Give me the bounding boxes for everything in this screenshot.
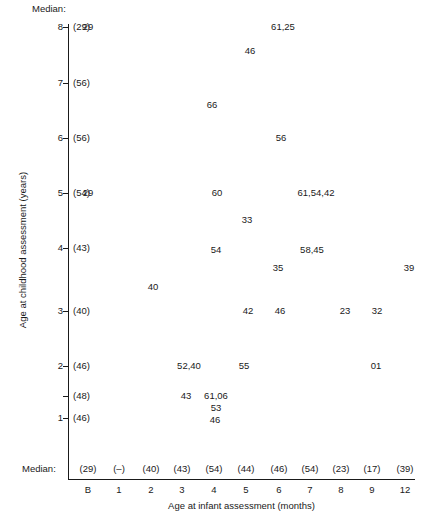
y-median-value: (46) <box>73 361 90 371</box>
data-point-label: 42 <box>243 306 254 316</box>
data-point-label: 23 <box>340 306 351 316</box>
y-axis-tick-label: 7 <box>32 83 63 93</box>
x-axis-tick-label: 8 <box>338 485 343 495</box>
x-axis-tick-label: 1 <box>116 485 121 495</box>
data-point-label: 61,54,42 <box>298 188 335 198</box>
y-median-value: (48) <box>73 391 90 401</box>
data-point-label: 40 <box>148 282 159 292</box>
y-axis-tick-label: 6 <box>32 138 63 148</box>
y-axis-tick-label: 5 <box>32 193 63 203</box>
x-axis-tick-label: B <box>85 485 91 495</box>
data-point-label: 61,25 <box>271 22 295 32</box>
y-median-value: (40) <box>73 306 90 316</box>
x-median-value: (17) <box>364 464 381 474</box>
data-point-label: 55 <box>239 361 250 371</box>
x-axis-line <box>68 479 415 480</box>
y-axis-line <box>68 24 69 479</box>
x-median-value: (44) <box>238 464 255 474</box>
data-point-label: 46 <box>245 46 256 56</box>
x-median-value: (40) <box>143 464 160 474</box>
y-axis-tick-mark <box>63 27 68 28</box>
data-point-label: 29 <box>83 22 94 32</box>
y-axis-tick-label: 8 <box>32 27 63 37</box>
y-axis-tick-mark <box>63 138 68 139</box>
x-median-value: (–) <box>113 464 125 474</box>
x-axis-title: Age at infant assessment (months) <box>68 500 415 511</box>
y-axis-title: Age at childhood assessment (years) <box>18 130 28 370</box>
x-axis-tick-label: 12 <box>400 485 411 495</box>
data-point-label: 33 <box>242 215 253 225</box>
data-point-label: 52,40 <box>177 361 201 371</box>
data-point-label: 39 <box>404 263 415 273</box>
y-axis-minor-tick-mark <box>63 396 68 397</box>
y-axis-tick-value: 7 <box>49 78 63 88</box>
y-median-value: (56) <box>73 133 90 143</box>
y-axis-tick-value: 1 <box>49 413 63 423</box>
y-median-value: (43) <box>73 243 90 253</box>
x-median-value: (39) <box>397 464 414 474</box>
y-axis-tick-label: 3 <box>32 311 63 321</box>
y-axis-tick-mark <box>63 193 68 194</box>
data-point-label: 60 <box>212 188 223 198</box>
data-point-label: 56 <box>276 133 287 143</box>
y-axis-tick-mark <box>63 418 68 419</box>
x-axis-tick-label: 2 <box>148 485 153 495</box>
data-point-label: 01 <box>371 361 382 371</box>
data-point-label: 46 <box>210 415 221 425</box>
y-axis-tick-label: 1 <box>32 418 63 428</box>
x-median-row-header: Median: <box>22 464 56 474</box>
x-median-value: (23) <box>333 464 350 474</box>
y-axis-tick-value: 4 <box>49 243 63 253</box>
data-point-label: 35 <box>273 263 284 273</box>
x-median-value: (43) <box>174 464 191 474</box>
data-point-label: 58,45 <box>300 245 324 255</box>
data-point-label: 53 <box>211 403 222 413</box>
x-axis-tick-label: 4 <box>211 485 216 495</box>
x-axis-tick-label: 7 <box>307 485 312 495</box>
data-point-label: 32 <box>372 306 383 316</box>
y-axis-tick-mark <box>63 366 68 367</box>
x-axis-tick-label: 3 <box>179 485 184 495</box>
data-point-label: 66 <box>207 100 218 110</box>
x-median-value: (46) <box>271 464 288 474</box>
data-point-label: 61,06 <box>204 391 228 401</box>
y-axis-tick-mark <box>63 311 68 312</box>
y-axis-tick-label: 2 <box>32 366 63 376</box>
data-point-label: 46 <box>275 306 286 316</box>
x-median-value: (29) <box>80 464 97 474</box>
x-axis-tick-label: 5 <box>243 485 248 495</box>
x-axis-tick-label: 9 <box>369 485 374 495</box>
y-axis-tick-value: 8 <box>49 22 63 32</box>
data-point-label: 43 <box>181 391 192 401</box>
x-axis-tick-label: 6 <box>276 485 281 495</box>
y-axis-tick-value: 6 <box>49 133 63 143</box>
x-median-value: (54) <box>206 464 223 474</box>
y-axis-tick-value: 3 <box>49 306 63 316</box>
y-median-value: (56) <box>73 78 90 88</box>
data-point-label: 54 <box>211 245 222 255</box>
y-axis-tick-mark <box>63 83 68 84</box>
y-axis-tick-label: 4 <box>32 248 63 258</box>
y-median-value: (46) <box>73 413 90 423</box>
x-median-value: (54) <box>302 464 319 474</box>
y-axis-tick-value: 2 <box>49 361 63 371</box>
data-point-label: 29 <box>83 188 94 198</box>
y-axis-tick-value: 5 <box>49 188 63 198</box>
y-median-column-header: Median: <box>32 4 66 14</box>
y-axis-tick-mark <box>63 248 68 249</box>
scatter-chart-figure: Median: Age at childhood assessment (yea… <box>0 0 423 518</box>
